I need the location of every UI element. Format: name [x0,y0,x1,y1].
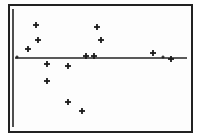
scatter-plot [0,0,199,138]
calculator-plot-screen [0,0,199,138]
